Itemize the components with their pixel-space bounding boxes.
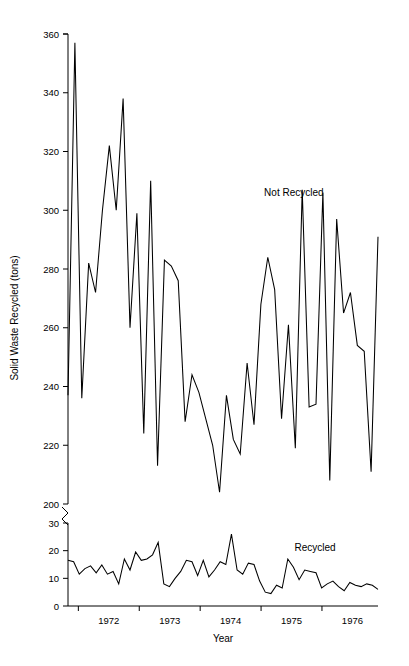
x-tick-label: 1975 bbox=[281, 615, 302, 626]
lower-y-tick-labels: 0102030 bbox=[48, 518, 59, 612]
y-tick-label: 0 bbox=[54, 601, 59, 612]
upper-y-tick-labels: 200220240260280300320340360 bbox=[43, 29, 59, 510]
annotation-recycled: Recycled bbox=[295, 542, 336, 553]
y-tick-label: 10 bbox=[48, 573, 59, 584]
x-tick-label: 1976 bbox=[342, 615, 363, 626]
y-tick-label: 360 bbox=[43, 29, 59, 40]
y-tick-label: 260 bbox=[43, 322, 59, 333]
y-tick-label: 220 bbox=[43, 440, 59, 451]
y-tick-label: 340 bbox=[43, 87, 59, 98]
solid-waste-line-chart: Solid Waste Recycled (tons) 200220240260… bbox=[0, 0, 409, 666]
y-tick-label: 280 bbox=[43, 264, 59, 275]
lower-axes-line bbox=[68, 523, 378, 606]
y-tick-label: 200 bbox=[43, 499, 59, 510]
annotation-not-recycled: Not Recycled bbox=[264, 187, 323, 198]
y-tick-label: 240 bbox=[43, 381, 59, 392]
x-tick-label: 1973 bbox=[159, 615, 180, 626]
x-tick-label: 1974 bbox=[220, 615, 241, 626]
lower-y-ticks bbox=[63, 523, 68, 606]
chart-figure: Solid Waste Recycled (tons) 200220240260… bbox=[0, 0, 409, 666]
axis-break-icon bbox=[62, 507, 68, 525]
upper-panel-axis: 200220240260280300320340360 bbox=[43, 29, 68, 510]
y-tick-label: 300 bbox=[43, 205, 59, 216]
x-axis-title: Year bbox=[213, 633, 234, 644]
y-tick-label: 20 bbox=[48, 545, 59, 556]
x-axis-tick-labels: 19721973197419751976 bbox=[98, 615, 363, 626]
series-line-not-recycled bbox=[68, 43, 378, 492]
x-axis-ticks bbox=[78, 606, 322, 611]
y-axis-title: Solid Waste Recycled (tons) bbox=[9, 255, 20, 380]
upper-y-ticks bbox=[63, 34, 68, 504]
y-tick-label: 320 bbox=[43, 146, 59, 157]
y-tick-label: 30 bbox=[48, 518, 59, 529]
x-tick-label: 1972 bbox=[98, 615, 119, 626]
